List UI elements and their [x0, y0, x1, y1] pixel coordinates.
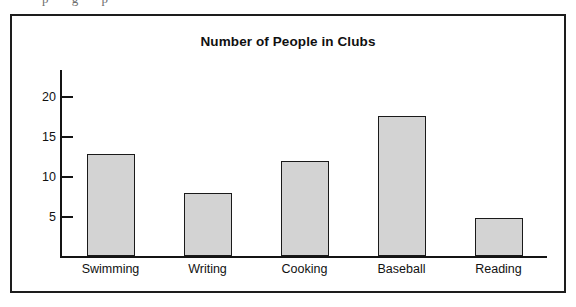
bar-swimming: [87, 154, 135, 256]
y-tick-mark-20: [62, 96, 73, 98]
bar-cooking: [281, 161, 329, 256]
x-label-writing: Writing: [159, 262, 256, 276]
y-tick-label-15: 15: [14, 130, 56, 144]
plot-area: 20 15 10 5 Swimming Writing Cooking Base…: [12, 16, 568, 295]
y-tick-label-10: 10: [14, 170, 56, 184]
x-axis-line: [60, 256, 547, 258]
x-label-swimming: Swimming: [62, 262, 159, 276]
y-tick-mark-10: [62, 176, 73, 178]
scan-artifact-top-text: p g p: [0, 0, 576, 11]
x-label-baseball: Baseball: [353, 262, 450, 276]
y-tick-mark-5: [62, 216, 73, 218]
x-label-reading: Reading: [450, 262, 547, 276]
y-tick-label-20: 20: [14, 90, 56, 104]
y-axis-line: [60, 70, 62, 258]
x-label-cooking: Cooking: [256, 262, 353, 276]
y-tick-mark-15: [62, 136, 73, 138]
bar-writing: [184, 193, 232, 256]
scan-artifact-text: p g p: [42, 0, 118, 7]
figure-frame: Number of People in Clubs 20 15 10 5 Swi…: [10, 14, 566, 293]
bar-reading: [475, 218, 523, 256]
y-tick-label-5: 5: [14, 210, 56, 224]
bar-baseball: [378, 116, 426, 256]
